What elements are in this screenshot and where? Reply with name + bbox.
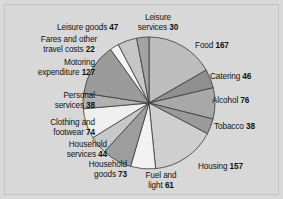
pie-label-alcohol: Alcohol 76 <box>212 96 249 106</box>
pie-label-fares-travel-costs-text1: Fares and other <box>41 35 97 44</box>
pie-label-fares-travel-costs-value: 22 <box>86 45 95 54</box>
pie-label-catering-value: 46 <box>242 72 251 81</box>
pie-label-clothing-and-footwear-text1: Clothing and <box>50 118 95 127</box>
pie-label-household-goods: Household goods 73 <box>53 160 127 179</box>
pie-label-food-value: 167 <box>215 41 228 50</box>
pie-label-tobacco-value: 38 <box>246 122 255 131</box>
pie-label-clothing-and-footwear-text2: footwear <box>53 128 84 137</box>
pie-label-motoring-expenditure: Motoring expenditure 127 <box>11 58 95 77</box>
pie-label-household-services: Household services 44 <box>33 140 107 159</box>
pie-label-catering: Catering 46 <box>210 72 251 82</box>
pie-label-household-goods-text2: goods <box>94 170 116 179</box>
pie-label-tobacco: Tobacco 38 <box>214 122 255 132</box>
pie-label-housing: Housing 157 <box>198 162 243 172</box>
pie-label-catering-text: Catering <box>210 72 240 81</box>
pie-label-food-text: Food <box>195 41 213 50</box>
pie-label-alcohol-text: Alcohol <box>212 96 238 105</box>
pie-label-housing-text: Housing <box>198 162 227 171</box>
pie-label-household-services-text2: services <box>67 150 96 159</box>
pie-label-leisure-services-text2: services <box>138 23 167 32</box>
pie-label-household-services-value: 44 <box>98 150 107 159</box>
pie-label-fares-travel-costs: Fares and other travel costs 22 <box>31 35 107 54</box>
pie-label-fuel-and-light-text1: Fuel and <box>145 171 176 180</box>
pie-chart: Food 167 Catering 46 Alcohol 76 Tobacco … <box>5 5 278 194</box>
pie-label-fares-travel-costs-text2: travel costs <box>43 45 83 54</box>
pie-label-clothing-and-footwear-value: 74 <box>86 128 95 137</box>
pie-label-personal-services: Personal services 38 <box>29 91 95 110</box>
pie-label-personal-services-text1: Personal <box>63 91 95 100</box>
pie-label-leisure-services-value: 30 <box>169 23 178 32</box>
pie-label-housing-value: 157 <box>230 162 243 171</box>
pie-label-leisure-services-text1: Leisure <box>145 13 171 22</box>
pie-label-motoring-expenditure-text1: Motoring <box>64 58 95 67</box>
pie-label-leisure-goods-value: 47 <box>109 23 118 32</box>
pie-label-fuel-and-light: Fuel and light 61 <box>134 171 188 190</box>
pie-label-fuel-and-light-text2: light <box>148 181 163 190</box>
pie-label-alcohol-value: 76 <box>240 96 249 105</box>
pie-label-clothing-and-footwear: Clothing and footwear 74 <box>19 118 95 137</box>
pie-label-fuel-and-light-value: 61 <box>165 181 174 190</box>
pie-label-leisure-goods: Leisure goods 47 <box>57 23 118 33</box>
pie-label-motoring-expenditure-value: 127 <box>82 68 95 77</box>
pie-label-personal-services-value: 38 <box>86 101 95 110</box>
screenshot-root: Food 167 Catering 46 Alcohol 76 Tobacco … <box>0 0 283 199</box>
pie-label-household-goods-value: 73 <box>118 170 127 179</box>
pie-label-motoring-expenditure-text2: expenditure <box>38 68 80 77</box>
pie-label-household-services-text1: Household <box>69 140 107 149</box>
pie-label-leisure-services: Leisure services 30 <box>127 13 189 32</box>
chart-frame: Food 167 Catering 46 Alcohol 76 Tobacco … <box>4 4 279 195</box>
pie-label-leisure-goods-text: Leisure goods <box>57 23 107 32</box>
pie-label-personal-services-text2: services <box>55 101 84 110</box>
pie-label-tobacco-text: Tobacco <box>214 122 244 131</box>
pie-label-household-goods-text1: Household <box>89 160 127 169</box>
pie-label-food: Food 167 <box>195 41 229 51</box>
